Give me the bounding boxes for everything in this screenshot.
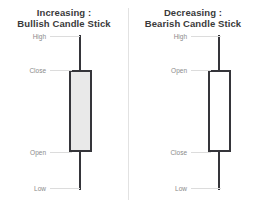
bullish-lower-wick [79,151,81,190]
bullish-low-label: Low [10,185,46,193]
bullish-low-leader-line [50,188,80,189]
bullish-close-leader-line [50,70,72,71]
candlestick-diagram: Increasing : Bullish Candle Stick High C… [0,0,257,208]
bearish-high-leader-line [191,36,221,37]
panel-bearish: Decreasing : Bearish Candle Stick High O… [129,0,257,208]
bearish-close-label: Close [151,149,187,157]
bullish-open-label: Open [10,149,46,157]
panel-bearish-title-line1: Decreasing : [129,7,257,18]
bullish-upper-wick [79,35,81,71]
bearish-open-leader-line [191,70,211,71]
bullish-close-label: Close [10,67,46,75]
bullish-high-leader-line [50,36,80,37]
panel-bullish: Increasing : Bullish Candle Stick High C… [0,0,128,208]
bearish-lower-wick [218,151,220,190]
bearish-upper-wick [218,35,220,71]
bullish-candle-body [69,70,92,152]
bearish-close-leader-line [191,152,211,153]
bearish-low-leader-line [191,188,221,189]
panel-bearish-title-line2: Bearish Candle Stick [129,18,257,29]
bullish-high-label: High [10,33,46,41]
panel-bullish-title-line2: Bullish Candle Stick [0,18,128,29]
panel-bullish-title-line1: Increasing : [0,7,128,18]
bearish-open-label: Open [151,67,187,75]
bearish-low-label: Low [151,185,187,193]
bullish-open-leader-line [50,152,72,153]
bearish-candle-body [208,70,231,152]
bearish-high-label: High [151,33,187,41]
